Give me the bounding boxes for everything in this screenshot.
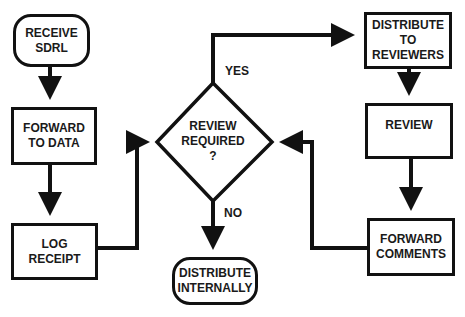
- arrow-comments-to-decision: [283, 142, 367, 248]
- node-log-receipt: LOG RECEIPT: [11, 223, 98, 280]
- node-review-line1: REVIEW: [385, 118, 432, 133]
- node-receive-sdrl-line1: RECEIVE: [25, 26, 78, 41]
- node-review: REVIEW: [365, 103, 453, 159]
- node-review-required-line3: ?: [168, 149, 258, 164]
- node-distribute-to-reviewers-line2: TO: [400, 33, 416, 48]
- node-log-receipt-line1: LOG: [42, 237, 68, 252]
- node-forward-to-data-line2: TO DATA: [28, 136, 79, 151]
- node-receive-sdrl: RECEIVE SDRL: [13, 14, 90, 67]
- node-distribute-to-reviewers: DISTRIBUTE TO REVIEWERS: [364, 12, 452, 69]
- node-distribute-internally-line1: DISTRIBUTE: [179, 266, 251, 281]
- node-forward-to-data: FORWARD TO DATA: [11, 107, 97, 165]
- node-distribute-to-reviewers-line3: REVIEWERS: [372, 48, 444, 63]
- node-forward-comments-line2: COMMENTS: [376, 247, 446, 262]
- node-forward-comments: FORWARD COMMENTS: [367, 218, 455, 276]
- edge-label-yes: YES: [225, 64, 249, 78]
- node-distribute-internally: DISTRIBUTE INTERNALLY: [172, 257, 258, 305]
- node-distribute-to-reviewers-line1: DISTRIBUTE: [372, 18, 444, 33]
- node-review-required: REVIEW REQUIRED ?: [168, 119, 258, 164]
- node-review-required-line1: REVIEW: [168, 119, 258, 134]
- node-log-receipt-line2: RECEIPT: [28, 252, 80, 267]
- node-forward-comments-line1: FORWARD: [380, 232, 442, 247]
- node-receive-sdrl-line2: SDRL: [35, 41, 68, 56]
- node-forward-to-data-line1: FORWARD: [23, 121, 85, 136]
- node-distribute-internally-line2: INTERNALLY: [178, 281, 253, 296]
- arrow-log-to-decision: [98, 142, 146, 248]
- node-review-required-line2: REQUIRED: [168, 134, 258, 149]
- edge-label-no: NO: [224, 206, 242, 220]
